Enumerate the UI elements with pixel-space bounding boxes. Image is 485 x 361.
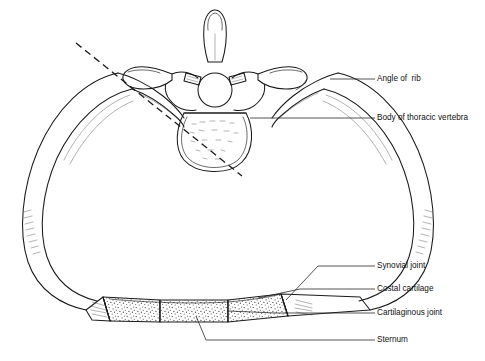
vertebral-foramen <box>198 73 232 107</box>
thorax-transverse-section-drawing: Angle of rib Body of thoracic vertebra S… <box>0 0 485 361</box>
label-sternum: Sternum <box>377 335 408 344</box>
label-synovial-joint: Synovial joint <box>377 261 426 270</box>
label-body-of-thoracic-vertebra: Body of thoracic vertebra <box>377 113 468 122</box>
label-angle-of-rib: Angle of rib <box>377 74 421 83</box>
label-costal-cartilage: Costal cartilage <box>377 284 434 293</box>
label-cartilaginous-joint: Cartilaginous joint <box>377 308 443 317</box>
anatomical-figure: Angle of rib Body of thoracic vertebra S… <box>0 0 485 361</box>
vertebral-body <box>177 113 251 172</box>
